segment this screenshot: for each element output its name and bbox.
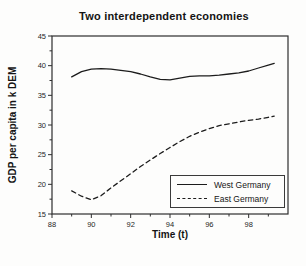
chart-figure: Two interdependent economies GDP per cap… — [0, 0, 306, 266]
y-tick-label: 40 — [38, 61, 46, 70]
series-line-west-germany — [72, 63, 275, 80]
legend-item-west-germany: West Germany — [177, 179, 278, 191]
legend-label: East Germany — [214, 194, 268, 204]
y-tick-label: 15 — [38, 210, 46, 219]
y-tick-label: 35 — [38, 91, 46, 100]
legend-solid-line-sample — [177, 184, 207, 185]
y-tick-label: 45 — [38, 32, 46, 41]
legend: West Germany East Germany — [170, 175, 285, 208]
plot-area: 88909294969815202530354045 — [0, 0, 306, 266]
x-tick-label: 94 — [166, 220, 174, 229]
x-tick-label: 88 — [48, 220, 56, 229]
x-tick-label: 92 — [126, 220, 134, 229]
x-tick-label: 98 — [244, 220, 252, 229]
x-tick-label: 90 — [87, 220, 95, 229]
legend-dashed-line-sample — [177, 198, 207, 199]
x-tick-label: 96 — [205, 220, 213, 229]
y-tick-label: 25 — [38, 150, 46, 159]
x-axis-label: Time (t) — [52, 229, 288, 240]
legend-label: West Germany — [214, 180, 271, 190]
y-tick-label: 20 — [38, 180, 46, 189]
y-tick-label: 30 — [38, 121, 46, 130]
legend-item-east-germany: East Germany — [177, 193, 278, 205]
